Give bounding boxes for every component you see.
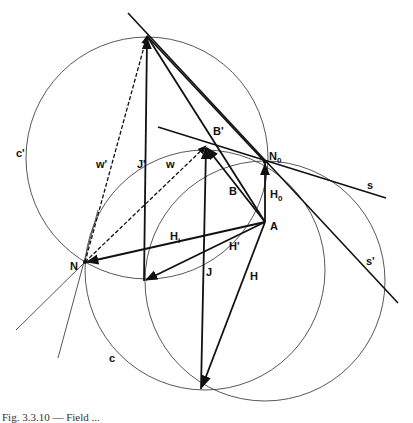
label-w: w: [165, 158, 175, 170]
label-s: s: [367, 179, 373, 191]
point-N: [83, 260, 87, 264]
label-w-prime: w': [95, 158, 108, 170]
label-J: J: [206, 266, 212, 278]
point-N0: [263, 160, 267, 164]
label-J-prime: J': [137, 158, 146, 170]
label-c: c: [109, 352, 115, 364]
label-B: B: [229, 185, 237, 197]
label-H0: H0: [270, 188, 283, 203]
line-T-N0: [147, 36, 265, 162]
label-H-prime: H': [229, 240, 240, 252]
tangent-line-steep: [58, 210, 98, 358]
figure-caption: Fig. 3.3.10 — Field ...: [2, 411, 100, 423]
label-s-prime: s': [366, 255, 375, 267]
label-A: A: [270, 220, 278, 232]
vector-w-prime: [85, 36, 147, 262]
label-B-prime: B': [213, 125, 224, 137]
label-H: H: [250, 270, 258, 282]
label-N: N: [70, 260, 78, 272]
label-c-prime: c': [16, 147, 25, 159]
